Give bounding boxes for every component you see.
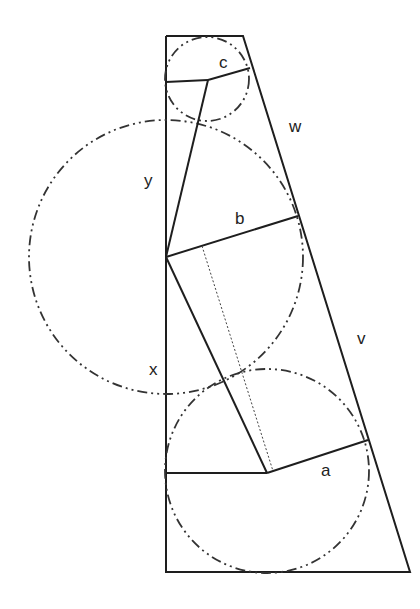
top-small-circle bbox=[165, 37, 249, 121]
segment-b bbox=[166, 216, 298, 257]
label-b: b bbox=[235, 209, 244, 228]
top-horizontal-segment bbox=[166, 80, 208, 82]
upper-slant-segment bbox=[166, 80, 208, 257]
label-w: w bbox=[288, 117, 302, 136]
label-c: c bbox=[219, 53, 228, 72]
geometry-diagram: c w y b v x a bbox=[0, 0, 420, 609]
segment-c bbox=[208, 68, 250, 80]
label-a: a bbox=[321, 461, 331, 480]
trapezoid-outline bbox=[166, 36, 410, 572]
label-x: x bbox=[149, 360, 158, 379]
segment-a bbox=[267, 440, 368, 473]
label-y: y bbox=[144, 171, 153, 190]
label-v: v bbox=[357, 329, 366, 348]
lower-slant-segment bbox=[166, 257, 267, 473]
